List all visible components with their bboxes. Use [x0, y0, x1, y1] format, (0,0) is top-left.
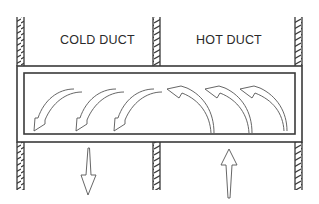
curved-arrow-down-left-icon	[76, 89, 124, 131]
outer-frame	[17, 66, 302, 142]
inner-box	[24, 73, 295, 134]
wall-middle-top	[153, 17, 160, 66]
diagram-canvas	[0, 0, 319, 204]
arrow-up-icon	[221, 149, 237, 198]
wall-right-top	[295, 17, 302, 66]
wall-left-top	[17, 17, 24, 66]
wall-middle-bottom	[153, 142, 160, 190]
cold-duct-label: COLD DUCT	[60, 33, 135, 47]
curved-arrow-down-left-icon	[114, 89, 162, 131]
wall-left-bottom	[17, 142, 24, 190]
wall-right-bottom	[295, 142, 302, 190]
arrow-down-icon	[81, 148, 96, 195]
cold-curved-arrows	[34, 89, 162, 131]
curved-arrow-up-left-icon	[167, 86, 214, 133]
hot-duct-label: HOT DUCT	[196, 33, 262, 47]
hot-curved-arrows	[167, 86, 287, 133]
curved-arrow-up-left-icon	[240, 86, 287, 131]
curved-arrow-down-left-icon	[34, 89, 82, 131]
